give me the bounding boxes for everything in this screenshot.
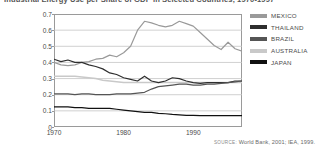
x-axis-tick-labels: 197019801990 — [0, 129, 323, 139]
legend-item-label: JAPAN — [271, 59, 292, 66]
chart-figure: Industrial Energy Use per Share of GDP i… — [0, 0, 323, 150]
y-axis-tick-label: 0.1 — [36, 107, 52, 114]
legend-swatch-icon — [250, 14, 267, 18]
legend-swatch-icon — [250, 60, 267, 64]
y-axis-tick-mark — [52, 30, 54, 31]
y-axis-tick-mark — [52, 127, 54, 128]
y-axis-tick-labels: 0.70.60.50.40.30.20.10 — [34, 0, 52, 150]
y-axis-tick-mark — [52, 79, 54, 80]
y-axis-tick-label: 0.3 — [36, 75, 52, 82]
y-axis-label: INDUSTRIAL ENERGY USE PER SHARE OF GDP (… — [0, 0, 6, 68]
y-axis-tick-mark — [52, 111, 54, 112]
data-series-mexico — [54, 21, 242, 65]
y-axis-tick-mark — [52, 95, 54, 96]
data-series-thailand — [54, 59, 242, 83]
x-axis-tick-label: 1970 — [47, 129, 62, 137]
source-note: SOURCE: World Bank, 2001; IEA, 1999. — [214, 139, 315, 145]
source-prefix: SOURCE: — [214, 140, 237, 145]
x-axis-tick-label: 1990 — [186, 129, 201, 137]
legend-item-label: THAILAND — [271, 24, 304, 31]
legend-item-label: AUSTRALIA — [271, 47, 308, 54]
series-canvas — [54, 14, 242, 127]
y-axis-tick-mark — [52, 14, 54, 15]
data-series-australia — [54, 76, 242, 82]
legend-item: AUSTRALIA — [250, 45, 322, 57]
legend-item: THAILAND — [250, 22, 322, 34]
legend-item: JAPAN — [250, 56, 322, 68]
source-text: World Bank, 2001; IEA, 1999. — [239, 139, 315, 145]
y-axis-tick-label: 0.5 — [36, 43, 52, 50]
legend: MEXICOTHAILANDBRAZILAUSTRALIAJAPAN — [250, 10, 322, 68]
legend-swatch-icon — [250, 37, 267, 41]
legend-swatch-icon — [250, 49, 267, 53]
y-axis-tick-label: 0.7 — [36, 11, 52, 18]
y-axis-tick-mark — [52, 46, 54, 47]
data-series-japan — [54, 107, 242, 116]
y-axis-tick-label: 0.2 — [36, 91, 52, 98]
y-axis-tick-label: 0.6 — [36, 27, 52, 34]
x-axis-tick-label: 1980 — [116, 129, 131, 137]
legend-swatch-icon — [250, 25, 267, 29]
legend-item-label: MEXICO — [271, 12, 297, 19]
legend-item: MEXICO — [250, 10, 322, 22]
legend-item: BRAZIL — [250, 33, 322, 45]
plot-area — [54, 14, 242, 127]
y-axis-tick-mark — [52, 62, 54, 63]
legend-item-label: BRAZIL — [271, 35, 294, 42]
y-axis-tick-label: 0.4 — [36, 59, 52, 66]
